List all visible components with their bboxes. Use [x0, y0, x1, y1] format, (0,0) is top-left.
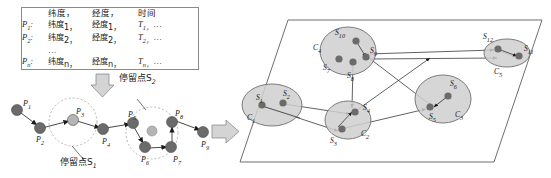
label-p7: P7 [173, 156, 181, 166]
label-p1: P1 [23, 100, 31, 110]
right-block-arrow-icon [212, 120, 239, 143]
label-p6: P6 [141, 156, 149, 166]
figure-canvas [0, 0, 551, 178]
stay-point-label-1: 停留点S1 [60, 158, 97, 169]
down-block-arrow-icon [91, 74, 114, 97]
stay-point-s10 [352, 37, 359, 44]
label-p2: P2 [36, 136, 44, 146]
label-c1: C1 [247, 114, 255, 124]
trajectory-node-p4 [98, 124, 109, 135]
stay-point-s12 [494, 45, 501, 52]
trajectory-node-p9 [198, 127, 209, 138]
stay-point-s2 [279, 99, 286, 106]
label-s3: S3 [330, 137, 337, 147]
stay-point-label-2: 停留点S2 [119, 74, 156, 85]
trajectory-node-p7 [166, 142, 177, 153]
label-c3: C3 [455, 111, 463, 121]
stay-point-s7 [335, 55, 342, 62]
label-s4: S4 [363, 104, 370, 114]
label-s8: S8 [347, 72, 354, 82]
label-s1: S1 [256, 94, 263, 104]
label-p5: P5 [128, 111, 136, 121]
label-p3: P3 [76, 108, 84, 118]
label-p4: P4 [102, 138, 110, 148]
label-s5: S5 [429, 113, 436, 123]
label-s9: S9 [370, 47, 377, 57]
label-p8: P8 [175, 110, 183, 120]
label-s2: S2 [283, 90, 290, 100]
stay-point-s6 [444, 92, 451, 99]
trajectory-node-p6 [140, 142, 151, 153]
label-s12: S12 [483, 33, 493, 43]
leader-line-stay-2 [137, 99, 146, 110]
stay-point-s5 [426, 103, 433, 110]
label-s7: S7 [323, 64, 330, 74]
trajectory-node-p2 [35, 123, 46, 134]
stay-point-s3 [338, 125, 345, 132]
label-s10: S10 [335, 29, 345, 39]
stay-centroid-node [147, 126, 157, 136]
label-s6: S6 [450, 80, 457, 90]
stay-point-s4 [351, 108, 358, 115]
stay-point-s11 [515, 52, 522, 59]
label-s11: S11 [524, 45, 534, 55]
trajectory-node-p1 [12, 105, 23, 116]
label-p9: P9 [201, 141, 209, 151]
stay-point-s8 [349, 58, 356, 65]
label-c5: C5 [494, 68, 502, 78]
label-c2: C2 [361, 130, 369, 140]
label-c4: C4 [313, 44, 321, 54]
stay-point-s9 [362, 53, 369, 60]
